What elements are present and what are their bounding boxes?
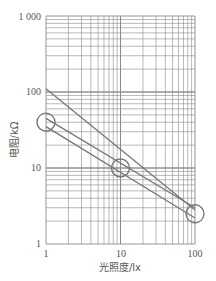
y-tick-100: 100: [26, 86, 41, 97]
y-tick-10: 10: [31, 162, 41, 173]
y-tick-1000: 1 000: [19, 11, 42, 22]
y-axis-label: 电阻/kΩ: [8, 121, 20, 158]
y-tick-1: 1: [36, 238, 41, 249]
grid: [46, 16, 195, 244]
x-tick-100: 100: [188, 248, 203, 259]
log-log-chart: 1 000 100 10 1 1 10 100 光照度/lx 电阻/kΩ: [0, 0, 216, 281]
x-axis-label: 光照度/lx: [99, 261, 141, 273]
x-tick-10: 10: [116, 248, 126, 259]
x-tick-1: 1: [44, 248, 49, 259]
